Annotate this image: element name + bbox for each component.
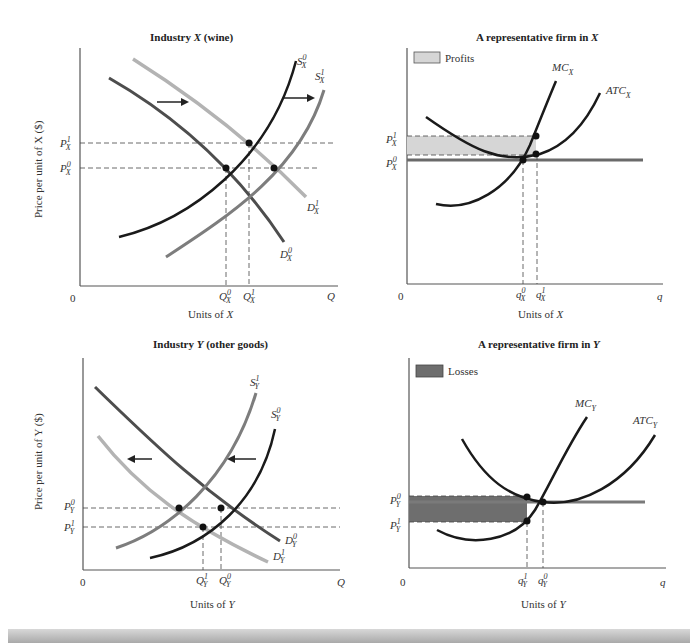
x-axis-label: Units of Y: [521, 598, 568, 610]
p-x1-tick: P1X: [59, 135, 72, 152]
d-y0-label: D0Y: [284, 532, 298, 549]
profits-legend-swatch: [414, 52, 440, 63]
y-axis-label: Price per unit of X ($): [32, 120, 45, 218]
p-y1-tick: P1Y: [389, 517, 402, 534]
s-x1-label: S1X: [315, 68, 326, 85]
y-axis-label: Price per unit of Y ($): [32, 413, 45, 510]
p-y1-tick: P1Y: [63, 519, 76, 536]
equilibrium-point: [533, 151, 540, 158]
mc-y-label: MCY: [574, 397, 598, 413]
equilibrium-point: [200, 524, 207, 531]
equilibrium-point: [271, 165, 278, 172]
atc-y-label: ATCY: [632, 414, 659, 430]
atc-x-label: ATCX: [605, 84, 632, 100]
equilibrium-point: [223, 165, 230, 172]
equilibrium-point: [540, 499, 547, 506]
q-y0-tick: Q0Y: [219, 572, 232, 589]
origin-label: 0: [80, 576, 86, 588]
x-axis-end-label: Q: [327, 290, 335, 302]
equilibrium-point: [524, 518, 531, 525]
q-y1-tick: Q1Y: [196, 572, 209, 589]
x-axis-label: Units of X: [518, 308, 565, 320]
q-y1-tick: q1Y: [518, 572, 529, 589]
p-x0-tick: P0X: [59, 160, 72, 177]
losses-area: [409, 496, 527, 522]
equilibrium-point: [246, 140, 253, 147]
d-y1-label: D1Y: [272, 548, 286, 565]
s-y1-label: S1Y: [250, 374, 261, 391]
d-x0-label: D0X: [279, 246, 293, 263]
s-x0-label: S0X: [297, 53, 308, 70]
x-axis-label: Units of Y: [190, 598, 237, 610]
equilibrium-point: [533, 133, 540, 140]
x-axis-end-label: Q: [337, 576, 345, 588]
p-y0-tick: P0Y: [63, 498, 76, 515]
industry-x-chart: P1X P0X Q0X Q1X 0 Q S0X S1X D1X D0X Pric…: [0, 0, 350, 320]
p-x0-tick: P0X: [385, 155, 398, 172]
firm-y-chart: Losses P0Y P1Y q1Y q0Y 0 q MCY ATCY Unit…: [350, 320, 698, 630]
equilibrium-point: [524, 494, 531, 501]
origin-label: 0: [400, 576, 406, 588]
firm-x-chart: Profits P1X P0X q0X q1X 0 q MCX ATCX Uni…: [350, 0, 698, 320]
d-x1-label: D1X: [306, 199, 320, 216]
equilibrium-point: [176, 505, 183, 512]
s-y0-label: S0Y: [271, 406, 282, 423]
profits-legend-label: Profits: [445, 52, 474, 64]
p-y0-tick: P0Y: [389, 492, 402, 509]
q-y0-tick: q0Y: [538, 572, 549, 589]
losses-legend-label: Losses: [448, 365, 478, 377]
equilibrium-point: [520, 157, 527, 164]
q-x0-tick: q0X: [516, 286, 527, 303]
p-x1-tick: P1X: [385, 131, 398, 148]
equilibrium-point: [218, 505, 225, 512]
bottom-divider-bar: [8, 629, 690, 643]
origin-label: 0: [70, 292, 76, 304]
x-axis-end-label: q: [660, 576, 666, 588]
mc-x-label: MCX: [551, 61, 575, 77]
origin-label: 0: [398, 290, 404, 302]
q-x0-tick: Q0X: [219, 288, 232, 305]
x-axis-end-label: q: [657, 290, 663, 302]
q-x1-tick: q1X: [536, 286, 547, 303]
x-axis-label: Units of X: [188, 308, 235, 320]
losses-legend-swatch: [416, 365, 443, 377]
q-x1-tick: Q1X: [243, 288, 256, 305]
industry-y-chart: P0Y P1Y Q1Y Q0Y 0 Q S1Y S0Y D0Y D1Y Pric…: [0, 320, 350, 630]
